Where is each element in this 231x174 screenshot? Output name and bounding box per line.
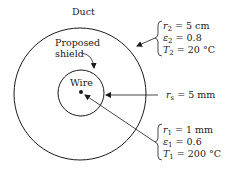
wire-brace	[155, 124, 162, 160]
duct-params: r2 = 5 cm ε2 = 0.8 T2 = 20 °C	[163, 20, 215, 57]
wire-params: r1 = 1 mm ε1 = 0.6 T1 = 200 °C	[163, 124, 221, 161]
svg-text:T1 = 200 °C: T1 = 200 °C	[163, 148, 221, 161]
duct-label: Duct	[72, 6, 95, 17]
duct-arrow	[137, 38, 155, 46]
wire-label: Wire	[70, 77, 93, 88]
duct-brace	[155, 21, 162, 56]
svg-text:T2 = 20 °C: T2 = 20 °C	[163, 44, 215, 57]
diagram-canvas: Duct Proposed shield Wire r2 = 5 cm ε2 =…	[0, 0, 231, 174]
wire-arrow	[85, 95, 155, 142]
wire-dot	[79, 90, 83, 94]
rs-label: rs = 5 mm	[166, 89, 215, 102]
shield-label-line2: shield	[55, 48, 84, 59]
shield-label-line1: Proposed	[55, 37, 100, 48]
